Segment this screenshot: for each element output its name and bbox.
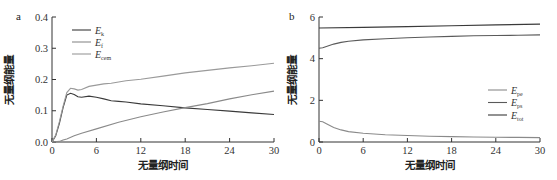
x-tick-label: 12 [402,145,413,156]
panel-b-series [319,24,540,138]
panel-b-chart: b 02460612182430 EpeEpsEtot 无量纲时间 无量纲能量 [286,10,545,171]
y-tick-label: 0.3 [35,43,48,54]
legend-label: Ecem [94,49,111,61]
x-tick-label: 24 [224,145,235,156]
x-tick-label: 18 [180,145,191,156]
panel-b-axes: 02460612182430 [310,12,546,157]
series-line-e-k [52,93,274,142]
panel-b-letter: b [289,10,295,22]
panel-a-axes: 0.00.10.20.30.40612182430 [35,12,279,157]
legend-label: Epe [510,85,523,97]
y-tick-label: 2 [310,95,315,106]
panel-a-y-axis-title: 无量纲能量 [3,54,15,106]
panel-a-chart: a 0.00.10.20.30.40612182430 EkEfEcem 无量纲… [3,10,279,171]
legend-label: Etot [510,110,524,122]
series-line-e-pe [319,121,540,137]
x-tick-label: 24 [491,145,502,156]
y-tick-label: 0.2 [35,74,48,85]
panel-b-legend: EpeEpsEtot [488,85,524,122]
x-tick-label: 0 [316,145,321,156]
y-tick-label: 4 [310,53,316,64]
y-tick-label: 0.1 [35,105,48,116]
x-tick-label: 30 [269,145,280,156]
y-tick-label: 6 [310,12,315,23]
series-line-e-cem [52,63,274,142]
panel-a-letter: a [16,10,21,22]
x-tick-label: 6 [94,145,99,156]
panel-b-y-axis-title: 无量纲能量 [286,54,298,106]
x-tick-label: 30 [535,145,546,156]
x-tick-label: 0 [49,145,54,156]
y-tick-label: 0 [310,137,315,148]
x-tick-label: 6 [361,145,366,156]
series-line-e-f [52,91,274,142]
x-tick-label: 18 [446,145,457,156]
axis-line [52,17,274,142]
panel-a-series [52,63,274,142]
series-line-e-ps [319,35,540,48]
legend-label: Eps [510,97,523,109]
panel-a-legend: EkEfEcem [72,25,111,61]
legend-label: Ef [94,37,103,49]
figure: a 0.00.10.20.30.40612182430 EkEfEcem 无量纲… [0,0,557,180]
series-line-e-tot [319,24,540,28]
legend-label: Ek [94,25,104,37]
x-tick-label: 12 [136,145,147,156]
y-tick-label: 0.4 [35,12,49,23]
y-tick-label: 0.0 [35,137,48,148]
panel-a-x-axis-title: 无量纲时间 [137,159,188,171]
panel-b-x-axis-title: 无量纲时间 [404,159,455,171]
